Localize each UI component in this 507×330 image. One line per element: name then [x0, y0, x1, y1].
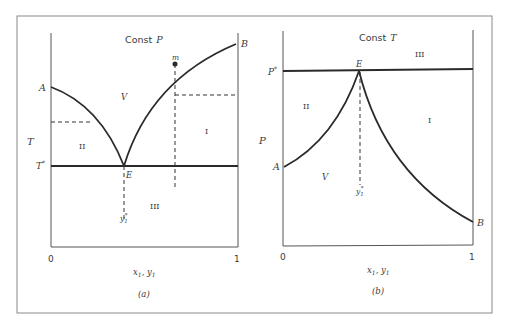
- panel-b-bottom-axis: [283, 245, 473, 246]
- panel-b-caption: (b): [372, 286, 384, 296]
- panel-b: ConstT III E P* II I P A V y1* B 0 1 x1,…: [258, 30, 484, 296]
- panel-b-x-tick-1: 1: [469, 252, 475, 262]
- panel-a-curve-eb: [124, 44, 236, 166]
- panel-a-label-A: A: [38, 82, 46, 93]
- panel-a-eutectic-label: y1*: [119, 212, 128, 224]
- panel-a-tstar-label: T*: [36, 159, 45, 171]
- panel-b-y-axis-label: P: [258, 135, 266, 146]
- panel-a-y-axis-label: T: [27, 136, 35, 147]
- panel-b-label-A: A: [272, 161, 280, 172]
- panel-a-label-E: E: [125, 170, 133, 180]
- panel-b-curve-eb: [359, 71, 473, 222]
- panel-b-eutectic-label: y1*: [355, 185, 364, 197]
- panel-a-region-III: III: [150, 202, 159, 211]
- panel-a-label-m: m: [172, 53, 179, 62]
- panel-a-region-V: V: [121, 92, 128, 102]
- panel-b-pstar-line: [283, 69, 473, 71]
- panel-b-x-tick-0: 0: [280, 252, 286, 262]
- panel-a-region-I: I: [205, 127, 208, 136]
- panel-a-caption: (a): [138, 289, 150, 299]
- panel-a-label-B: B: [240, 38, 248, 49]
- panel-a-title: ConstP: [125, 34, 163, 45]
- phase-diagram-figure: ConstP m B A E V I II III T T* y1* 0 1 x…: [0, 0, 507, 330]
- panel-a-curve-ae: [51, 87, 124, 166]
- panel-b-region-III: III: [415, 50, 424, 59]
- panel-b-region-I: I: [428, 116, 431, 125]
- panel-a-x-axis-label: x1, y1: [133, 267, 156, 278]
- panel-a-x-tick-0: 0: [48, 254, 54, 264]
- panel-a-region-II: II: [79, 142, 85, 151]
- panel-b-pstar-label: P*: [267, 65, 277, 77]
- panel-b-region-V: V: [322, 172, 329, 182]
- panel-b-label-B: B: [476, 217, 484, 228]
- panel-b-title: ConstT: [359, 32, 397, 43]
- panel-a-point-m: [173, 62, 178, 67]
- panel-a-x-tick-1: 1: [234, 254, 240, 264]
- panel-a: ConstP m B A E V I II III T T* y1* 0 1 x…: [27, 33, 248, 299]
- panel-b-label-E: E: [355, 59, 363, 69]
- panel-b-curve-ae: [284, 71, 359, 167]
- panel-b-x-axis-label: x1, y1: [367, 265, 390, 276]
- panel-b-region-II: II: [303, 102, 309, 111]
- figure-frame: [17, 16, 492, 313]
